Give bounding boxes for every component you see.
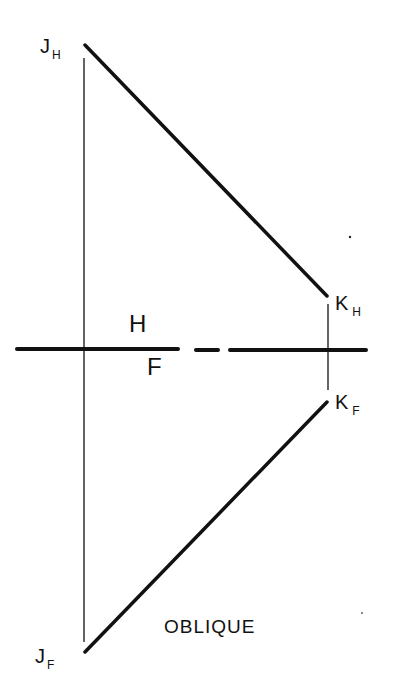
diagram-caption: OBLIQUE	[164, 617, 255, 636]
label-jh-letter: J	[40, 35, 50, 57]
line-jh-kh	[85, 45, 327, 296]
label-jf-subscript: F	[47, 658, 54, 672]
label-jf: JF	[35, 646, 54, 666]
label-kf: KF	[335, 392, 360, 412]
speck	[349, 236, 351, 238]
label-kh: KH	[335, 293, 361, 313]
label-jf-letter: J	[35, 645, 45, 667]
label-jh-subscript: H	[52, 48, 61, 62]
plane-label-f: F	[147, 355, 162, 379]
label-jh: JH	[40, 36, 61, 56]
label-kf-letter: K	[335, 391, 348, 413]
label-kh-subscript: H	[352, 305, 361, 319]
label-kf-subscript: F	[352, 404, 359, 418]
oblique-line-diagram	[0, 0, 393, 691]
plane-label-h: H	[129, 312, 146, 336]
line-kf-jf	[85, 402, 327, 652]
speck	[361, 612, 363, 614]
label-kh-letter: K	[335, 292, 348, 314]
